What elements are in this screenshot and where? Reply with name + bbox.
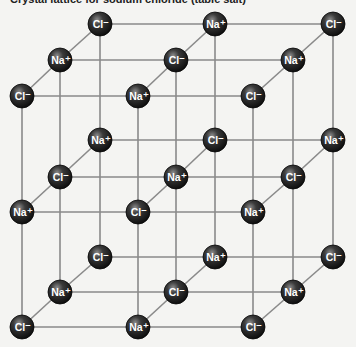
ion-label: Na⁺ [51,286,70,298]
ion-label: Cl⁻ [15,90,32,102]
sodium-ion: Na⁺ [126,84,150,108]
chloride-ion: Cl⁻ [203,128,227,152]
ion-label: Cl⁻ [15,321,32,333]
ion-label: Cl⁻ [169,286,186,298]
ion-label: Na⁺ [167,171,186,183]
ion-label: Cl⁻ [326,18,343,30]
ion-label: Na⁺ [129,321,148,333]
ion-label: Cl⁻ [326,251,343,263]
ion-label: Cl⁻ [93,18,110,30]
sodium-ion: Na⁺ [126,315,150,339]
ion-label: Na⁺ [13,206,32,218]
chloride-ion: Cl⁻ [88,245,112,269]
ion-label: Cl⁻ [53,171,70,183]
sodium-ion: Na⁺ [10,200,34,224]
ion-label: Na⁺ [324,134,343,146]
sodium-ion: Na⁺ [164,165,188,189]
chloride-ion: Cl⁻ [48,165,72,189]
ion-label: Cl⁻ [169,54,186,66]
chloride-ion: Cl⁻ [241,315,265,339]
ion-label: Cl⁻ [286,171,303,183]
ion-label: Cl⁻ [208,134,225,146]
chloride-ion: Cl⁻ [88,12,112,36]
ion-label: Na⁺ [206,18,225,30]
chloride-ion: Cl⁻ [164,280,188,304]
sodium-ion: Na⁺ [88,128,112,152]
chloride-ion: Cl⁻ [164,48,188,72]
sodium-ion: Na⁺ [203,245,227,269]
chloride-ion: Cl⁻ [321,12,345,36]
sodium-ion: Na⁺ [48,280,72,304]
ion-label: Na⁺ [244,206,263,218]
sodium-ion: Na⁺ [203,12,227,36]
ion-label: Na⁺ [284,54,303,66]
ion-label: Cl⁻ [93,251,110,263]
ion-label: Cl⁻ [246,321,263,333]
chloride-ion: Cl⁻ [281,165,305,189]
sodium-ion: Na⁺ [241,200,265,224]
sodium-ion: Na⁺ [48,48,72,72]
nacl-crystal-lattice: Cl⁻Na⁺Cl⁻Na⁺Cl⁻Na⁺Cl⁻Na⁺Cl⁻Na⁺Cl⁻Na⁺Cl⁻N… [0,0,356,347]
lattice-ions: Cl⁻Na⁺Cl⁻Na⁺Cl⁻Na⁺Cl⁻Na⁺Cl⁻Na⁺Cl⁻Na⁺Cl⁻N… [10,12,345,339]
ion-label: Na⁺ [284,286,303,298]
ion-label: Na⁺ [129,90,148,102]
ion-label: Cl⁻ [246,90,263,102]
ion-label: Na⁺ [91,134,110,146]
chloride-ion: Cl⁻ [321,245,345,269]
chloride-ion: Cl⁻ [10,315,34,339]
ion-label: Na⁺ [206,251,225,263]
chloride-ion: Cl⁻ [10,84,34,108]
ion-label: Na⁺ [51,54,70,66]
chloride-ion: Cl⁻ [241,84,265,108]
ion-label: Cl⁻ [131,206,148,218]
chloride-ion: Cl⁻ [126,200,150,224]
sodium-ion: Na⁺ [281,48,305,72]
sodium-ion: Na⁺ [321,128,345,152]
sodium-ion: Na⁺ [281,280,305,304]
